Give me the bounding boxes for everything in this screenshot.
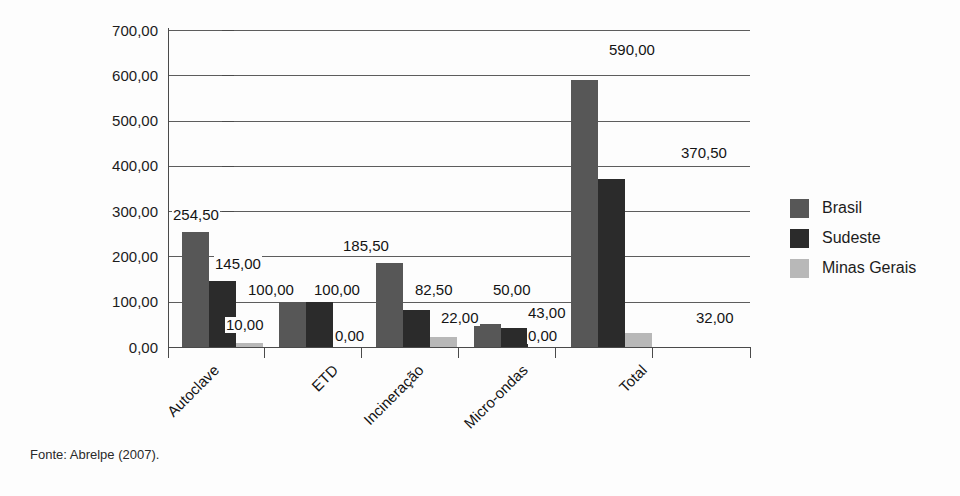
legend-label-minas-gerais: Minas Gerais xyxy=(822,259,916,277)
x-tick-mark xyxy=(750,348,751,358)
legend-label-brasil: Brasil xyxy=(822,199,862,217)
value-label-incineracao-brasil: 185,50 xyxy=(342,238,390,254)
legend-item-sudeste[interactable]: Sudeste xyxy=(790,223,916,253)
bar-autoclave-minas-gerais xyxy=(236,343,263,348)
x-tick-mark xyxy=(264,348,265,358)
y-tick-mark xyxy=(222,347,234,348)
x-category-label-autoclave: Autoclave xyxy=(164,362,222,420)
y-tick-label-500: 500,00 xyxy=(60,113,158,128)
chart-legend: Brasil Sudeste Minas Gerais xyxy=(790,193,916,283)
value-label-autoclave-brasil: 254,50 xyxy=(172,207,220,223)
x-tick-mark xyxy=(555,348,556,358)
legend-swatch-sudeste xyxy=(790,229,809,248)
source-note: Fonte: Abrelpe (2007). xyxy=(30,447,159,462)
value-label-total-brasil: 590,00 xyxy=(608,42,656,58)
value-label-autoclave-sudeste: 145,00 xyxy=(214,256,262,272)
chart-figure: 700,00 600,00 500,00 400,00 300,00 200,0… xyxy=(0,0,960,496)
bar-total-minas-gerais xyxy=(625,333,652,348)
bar-total-sudeste xyxy=(598,179,625,347)
x-category-label-micro-ondas: Micro-ondas xyxy=(461,362,531,432)
bar-etd-brasil xyxy=(279,302,306,347)
value-label-micro-ondas-minas: 0,00 xyxy=(527,328,558,344)
y-tick-label-300: 300,00 xyxy=(60,204,158,219)
y-tick-label-400: 400,00 xyxy=(60,158,158,173)
bar-incineracao-brasil xyxy=(376,263,403,347)
bar-micro-ondas-brasil xyxy=(474,324,501,347)
bar-micro-ondas-sudeste xyxy=(501,328,528,348)
value-label-micro-ondas-brasil: 50,00 xyxy=(492,282,532,298)
y-tick-label-600: 600,00 xyxy=(60,68,158,83)
x-category-label-etd: ETD xyxy=(309,362,342,395)
bar-total-brasil xyxy=(571,80,598,347)
value-label-total-sudeste: 370,50 xyxy=(680,145,728,161)
x-tick-mark xyxy=(652,348,653,358)
x-tick-mark xyxy=(361,348,362,358)
legend-swatch-minas-gerais xyxy=(790,259,809,278)
value-label-micro-ondas-sudeste: 43,00 xyxy=(527,305,567,321)
y-tick-label-200: 200,00 xyxy=(60,249,158,264)
legend-swatch-brasil xyxy=(790,199,809,218)
value-label-total-minas: 32,00 xyxy=(695,310,735,326)
bar-incineracao-sudeste xyxy=(403,310,430,347)
bar-incineracao-minas-gerais xyxy=(430,337,457,347)
value-label-etd-minas: 0,00 xyxy=(334,328,365,344)
value-label-etd-brasil: 100,00 xyxy=(247,282,295,298)
legend-item-minas-gerais[interactable]: Minas Gerais xyxy=(790,253,916,283)
x-tick-mark xyxy=(168,348,169,358)
y-tick-label-100: 100,00 xyxy=(60,294,158,309)
bars-layer xyxy=(168,30,750,347)
y-tick-label-700: 700,00 xyxy=(60,23,158,38)
x-category-label-incineracao: Incineração xyxy=(361,362,427,428)
x-category-label-total: Total xyxy=(616,362,650,396)
bar-autoclave-sudeste xyxy=(209,281,236,347)
x-tick-mark xyxy=(458,348,459,358)
value-label-incineracao-sudeste: 82,50 xyxy=(414,282,454,298)
bar-autoclave-brasil xyxy=(182,232,209,347)
legend-item-brasil[interactable]: Brasil xyxy=(790,193,916,223)
value-label-incineracao-minas: 22,00 xyxy=(440,310,480,326)
x-axis-line xyxy=(168,347,751,348)
y-tick-label-0: 0,00 xyxy=(60,340,158,355)
legend-label-sudeste: Sudeste xyxy=(822,229,881,247)
value-label-etd-sudeste: 100,00 xyxy=(313,282,361,298)
bar-etd-sudeste xyxy=(306,302,333,347)
value-label-autoclave-minas: 10,00 xyxy=(225,317,265,333)
